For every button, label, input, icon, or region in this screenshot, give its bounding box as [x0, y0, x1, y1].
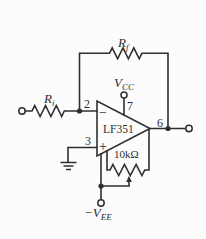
vcc-terminal	[121, 92, 127, 98]
ground-wire	[68, 148, 97, 163]
input-terminal	[19, 108, 25, 114]
pin-6-label: 6	[157, 116, 163, 130]
ri-label: Ri	[43, 91, 55, 108]
ground-icon	[61, 163, 77, 170]
pin-7-label: 7	[127, 99, 133, 113]
output-terminal	[186, 125, 192, 131]
pin-2-label: 2	[84, 97, 90, 111]
ic-part-number: LF351	[103, 123, 134, 135]
vee-label: −VEE	[84, 205, 112, 222]
vcc-label: VCC	[114, 75, 135, 92]
circuit-svg: Rf Ri VCC −VEE 2 7 3 6 − + LF351 10kΩ	[0, 0, 206, 239]
wiper-arrow-icon	[126, 176, 132, 182]
pin-3-label: 3	[85, 134, 91, 148]
inverting-input-sign: −	[99, 105, 107, 120]
noninverting-input-sign: +	[99, 139, 107, 154]
circuit-diagram: Rf Ri VCC −VEE 2 7 3 6 − + LF351 10kΩ	[0, 0, 206, 239]
junction-dot-vee	[98, 183, 103, 188]
wiper-wire	[101, 182, 129, 187]
junction-dot-input	[77, 108, 82, 113]
rf-label: Rf	[117, 35, 130, 52]
junction-dot-output	[165, 126, 170, 131]
pot-value-label: 10kΩ	[114, 148, 139, 160]
